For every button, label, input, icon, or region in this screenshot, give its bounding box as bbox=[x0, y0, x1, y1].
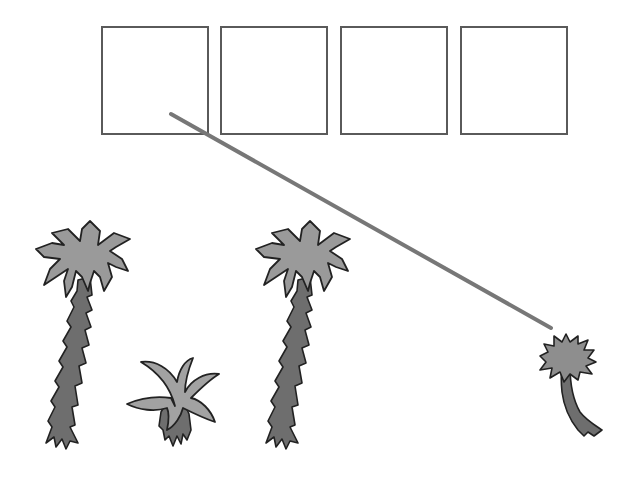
palm-tree-short-icon bbox=[532, 332, 607, 442]
draggable-piece-4[interactable] bbox=[532, 332, 607, 442]
palm-tree-tall-icon bbox=[30, 215, 135, 455]
drop-slot-3[interactable] bbox=[340, 26, 448, 135]
draggable-piece-2[interactable] bbox=[125, 350, 225, 450]
drop-slot-1[interactable] bbox=[101, 26, 209, 135]
draggable-piece-3[interactable] bbox=[250, 215, 355, 455]
draggable-piece-1[interactable] bbox=[30, 215, 135, 455]
small-plant-icon bbox=[125, 350, 225, 450]
palm-tree-tall-icon bbox=[250, 215, 355, 455]
drop-slot-2[interactable] bbox=[220, 26, 328, 135]
drop-slot-4[interactable] bbox=[460, 26, 568, 135]
